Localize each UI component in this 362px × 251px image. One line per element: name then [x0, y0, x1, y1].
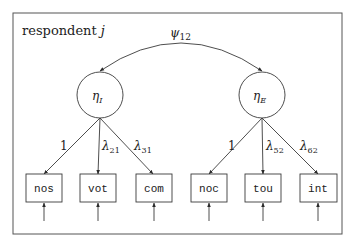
indicator-noc: noc: [191, 174, 227, 202]
svg-text:noc: noc: [199, 183, 219, 195]
covariance-arc: [100, 43, 262, 71]
indicator-com: com: [136, 174, 172, 202]
indicator-vot: vot: [80, 174, 116, 202]
loading-arrow-tou: [262, 118, 263, 174]
svg-text:nos: nos: [34, 183, 54, 195]
latent-circle: [77, 72, 123, 118]
loading-arrow-nos: [44, 118, 100, 174]
indicator-int: int: [300, 174, 337, 202]
latent-eta-e: ηE: [239, 72, 285, 118]
latent-eta-i: ηI: [77, 72, 123, 118]
covariance-label: ψ12: [170, 26, 191, 42]
loading-arrow-vot: [98, 118, 100, 174]
svg-text:int: int: [308, 183, 328, 195]
indicator-tou: tou: [245, 174, 281, 202]
svg-text:com: com: [144, 183, 164, 195]
latent-circle: [239, 72, 285, 118]
loading-label: λ52: [265, 139, 284, 155]
svg-text:tou: tou: [253, 183, 273, 195]
svg-text:vot: vot: [88, 183, 108, 195]
loading-label: λ31: [133, 139, 152, 155]
loading-label: λ21: [101, 139, 120, 155]
indicator-nos: nos: [26, 174, 62, 202]
frame-label: respondent j: [22, 23, 105, 38]
loading-label: 1: [228, 139, 236, 153]
loading-label: 1: [60, 139, 68, 153]
sem-diagram: respondent j ψ12 ηI ηE 1 λ21 λ31 1 λ52 λ…: [0, 0, 362, 251]
loading-label: λ62: [299, 139, 318, 155]
